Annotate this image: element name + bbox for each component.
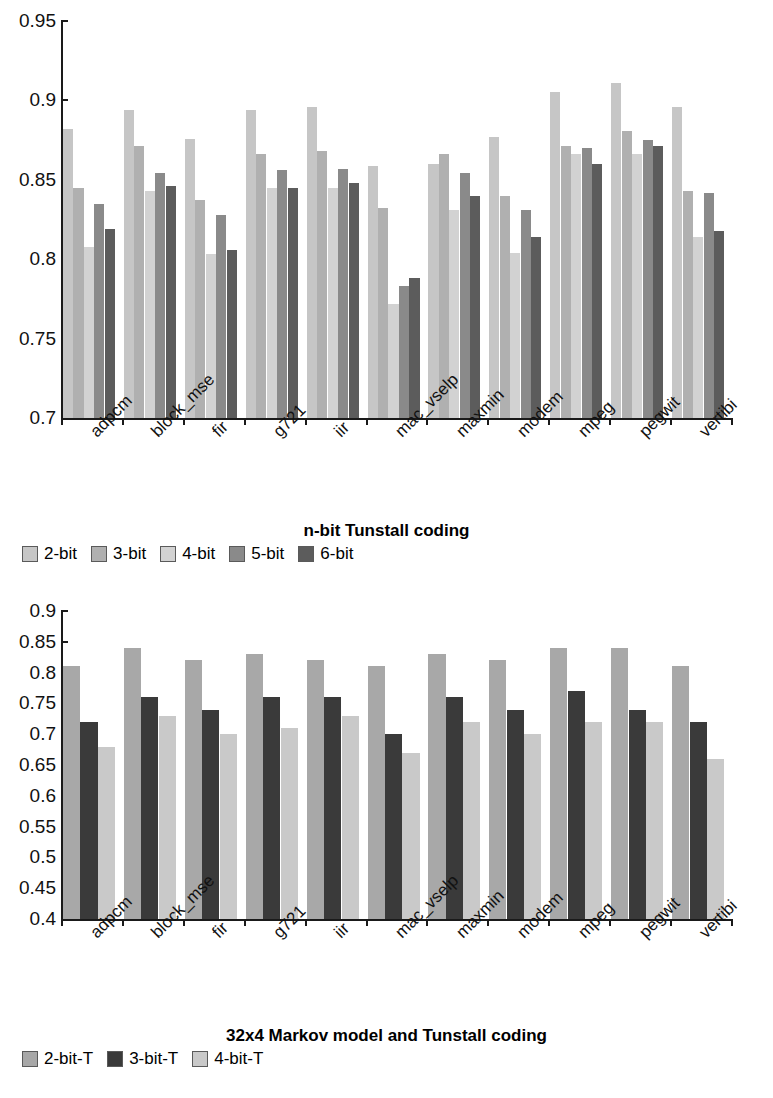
bar xyxy=(124,648,141,919)
bar xyxy=(489,660,506,919)
bar xyxy=(338,169,348,418)
bar xyxy=(166,186,176,418)
bar xyxy=(368,166,378,418)
y-tick-label: 0.7 xyxy=(2,408,56,427)
legend-swatch-icon xyxy=(229,546,245,562)
x-tick-label: iir xyxy=(331,920,352,941)
legend-chart1: 2-bit3-bit4-bit5-bit6-bit xyxy=(22,545,367,562)
bar xyxy=(84,247,94,419)
bar xyxy=(550,92,560,418)
bar xyxy=(105,229,115,418)
x-tick-label: iir xyxy=(331,419,352,440)
legend-item[interactable]: 2-bit-T xyxy=(22,1050,93,1067)
legend-item[interactable]: 4-bit-T xyxy=(192,1050,263,1067)
y-tick-label: 0.9 xyxy=(2,601,56,620)
chart1-caption: n-bit Tunstall coding xyxy=(0,521,773,541)
legend-item[interactable]: 3-bit-T xyxy=(107,1050,178,1067)
bar xyxy=(489,137,499,418)
bar xyxy=(629,710,646,919)
bar xyxy=(643,140,653,418)
bar xyxy=(531,237,541,418)
y-tick-label: 0.9 xyxy=(2,90,56,109)
y-tick-label: 0.65 xyxy=(2,755,56,774)
bar xyxy=(585,722,602,919)
x-tick-mark xyxy=(61,418,63,425)
bar xyxy=(98,747,115,919)
y-tick-label: 0.55 xyxy=(2,817,56,836)
bar xyxy=(507,710,524,919)
bar xyxy=(288,188,298,418)
legend-label: 5-bit xyxy=(251,545,284,562)
legend-swatch-icon xyxy=(298,546,314,562)
bar xyxy=(672,107,682,418)
bar xyxy=(63,666,80,919)
bar xyxy=(500,196,510,418)
bar xyxy=(550,648,567,919)
x-tick-mark xyxy=(366,919,368,926)
chart-n-bit-tunstall: 0.950.90.850.80.750.7 adpcmblock_msefirg… xyxy=(0,0,773,575)
bar xyxy=(409,278,419,418)
x-tick-mark xyxy=(487,919,489,926)
legend-swatch-icon xyxy=(192,1051,208,1067)
y-tick-label: 0.7 xyxy=(2,724,56,743)
chart2-caption: 32x4 Markov model and Tunstall coding xyxy=(0,1026,773,1046)
legend-item[interactable]: 6-bit xyxy=(298,545,353,562)
x-tick-label: fir xyxy=(209,919,231,941)
bar xyxy=(145,191,155,418)
legend-label: 2-bit-T xyxy=(44,1050,93,1067)
legend-label: 2-bit xyxy=(44,545,77,562)
figure-page: 0.950.90.850.80.750.7 adpcmblock_msefirg… xyxy=(0,0,773,1098)
legend-item[interactable]: 5-bit xyxy=(229,545,284,562)
legend-swatch-icon xyxy=(160,546,176,562)
bar xyxy=(463,722,480,919)
bar xyxy=(632,154,642,418)
bar xyxy=(582,148,592,418)
bar xyxy=(277,170,287,418)
legend-swatch-icon xyxy=(107,1051,123,1067)
bar xyxy=(307,107,317,418)
legend-label: 4-bit-T xyxy=(214,1050,263,1067)
chart-markov-tunstall: 0.90.850.80.750.70.650.60.550.50.450.4 a… xyxy=(0,598,773,1098)
y-tick-label: 0.75 xyxy=(2,693,56,712)
bar xyxy=(707,759,724,919)
bar xyxy=(521,210,531,418)
y-tick-label: 0.4 xyxy=(2,909,56,928)
bar xyxy=(402,753,419,919)
legend-item[interactable]: 3-bit xyxy=(91,545,146,562)
y-tick-label: 0.75 xyxy=(2,329,56,348)
bar xyxy=(256,154,266,418)
y-tick-label: 0.85 xyxy=(2,170,56,189)
y-tick-label: 0.45 xyxy=(2,878,56,897)
y-tick-label: 0.8 xyxy=(2,249,56,268)
legend-label: 6-bit xyxy=(320,545,353,562)
x-axis-labels-chart2: adpcmblock_msefirg721iirmac_vselpmaxminm… xyxy=(63,925,733,1020)
bar xyxy=(683,191,693,418)
y-tick-label: 0.95 xyxy=(2,11,56,30)
x-tick-mark xyxy=(244,919,246,926)
bar xyxy=(611,648,628,919)
bar xyxy=(690,722,707,919)
bar xyxy=(653,146,663,418)
bar xyxy=(185,139,195,418)
bar xyxy=(568,691,585,919)
plot-area-chart1 xyxy=(63,21,733,418)
bar xyxy=(220,734,237,919)
x-tick-mark xyxy=(244,418,246,425)
x-tick-mark xyxy=(183,418,185,425)
legend-swatch-icon xyxy=(91,546,107,562)
x-tick-mark xyxy=(670,919,672,926)
x-tick-mark xyxy=(61,919,63,926)
legend-swatch-icon xyxy=(22,1051,38,1067)
bar xyxy=(246,110,256,418)
x-tick-mark xyxy=(183,919,185,926)
legend-item[interactable]: 2-bit xyxy=(22,545,77,562)
x-tick-mark xyxy=(548,919,550,926)
bar xyxy=(328,188,338,418)
plot-area-chart2 xyxy=(63,611,733,919)
bar xyxy=(141,697,158,919)
bar xyxy=(94,204,104,418)
legend-label: 4-bit xyxy=(182,545,215,562)
bar xyxy=(571,154,581,418)
legend-item[interactable]: 4-bit xyxy=(160,545,215,562)
x-tick-mark xyxy=(366,418,368,425)
